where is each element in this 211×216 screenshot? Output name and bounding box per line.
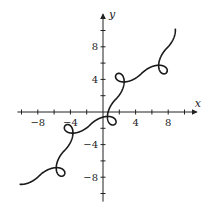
x-tick-label: 4 [132,117,138,128]
x-axis-label: x [195,97,202,110]
y-axis-label: y [108,8,116,21]
parametric-curve-chart: −8−448 x 84−4−8 y [0,0,211,216]
y-tick-label: 4 [92,74,98,85]
y-tick-label: −4 [83,139,98,150]
x-tick-label: 8 [165,117,171,128]
y-tick-label: 8 [92,41,98,52]
x-tick-label: −8 [30,117,45,128]
y-tick-label: −8 [83,172,98,183]
